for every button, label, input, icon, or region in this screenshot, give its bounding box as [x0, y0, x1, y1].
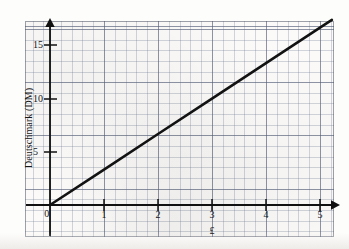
chart-plot-area: [0, 0, 349, 249]
x-tick-label-origin: 0: [44, 209, 49, 219]
x-tick-label-5: 5: [318, 210, 323, 220]
x-axis-title: £: [210, 226, 215, 236]
y-tick-label-15: 15: [33, 40, 43, 50]
x-axis-arrowhead: [331, 200, 340, 209]
x-tick-label-4: 4: [264, 210, 269, 220]
scanned-page: 0 1 2 3 4 5 5 10 15 £ Deutschmark (DM): [0, 0, 349, 249]
y-axis-title: Deutschmark (DM): [24, 88, 34, 168]
y-tick-label-10: 10: [33, 94, 43, 104]
axes-group: [26, 18, 340, 236]
conversion-line-series: [50, 20, 332, 205]
x-tick-label-1: 1: [102, 210, 107, 220]
y-axis-arrowhead: [45, 18, 54, 27]
x-tick-label-2: 2: [156, 210, 161, 220]
x-tick-label-3: 3: [210, 210, 215, 220]
